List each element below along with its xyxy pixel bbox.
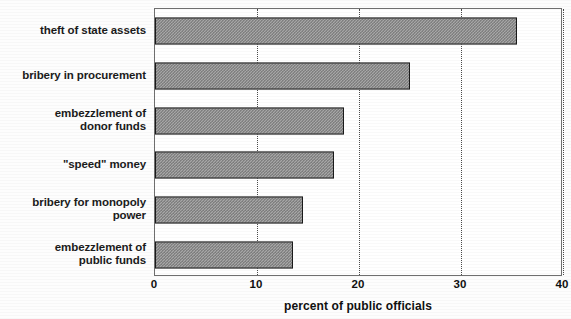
bar-chart: theft of state assetsbribery in procurem… bbox=[0, 0, 571, 319]
bar bbox=[155, 18, 517, 45]
category-label: "speed" money bbox=[0, 158, 146, 171]
bar bbox=[155, 152, 334, 179]
category-label: theft of state assets bbox=[0, 24, 146, 37]
x-tick-label: 30 bbox=[454, 278, 467, 290]
x-axis-title: percent of public officials bbox=[154, 299, 562, 313]
bar bbox=[155, 197, 303, 224]
bar bbox=[155, 63, 410, 90]
category-label: embezzlement of donor funds bbox=[0, 107, 146, 133]
category-label: bribery for monopoly power bbox=[0, 196, 146, 222]
category-label: embezzlement of public funds bbox=[0, 241, 146, 267]
gridline bbox=[461, 9, 463, 275]
x-tick-label: 10 bbox=[250, 278, 263, 290]
gridline bbox=[257, 9, 259, 275]
gridline bbox=[359, 9, 361, 275]
x-axis-tick-labels: 010203040 bbox=[154, 278, 562, 296]
bar bbox=[155, 107, 344, 134]
category-label: bribery in procurement bbox=[0, 69, 146, 82]
bar bbox=[155, 241, 293, 268]
category-axis-labels: theft of state assetsbribery in procurem… bbox=[0, 0, 150, 276]
gridline bbox=[563, 9, 565, 275]
x-tick-label: 20 bbox=[352, 278, 365, 290]
plot-area bbox=[154, 8, 562, 276]
x-tick-label: 0 bbox=[151, 278, 157, 290]
x-tick-label: 40 bbox=[556, 278, 569, 290]
